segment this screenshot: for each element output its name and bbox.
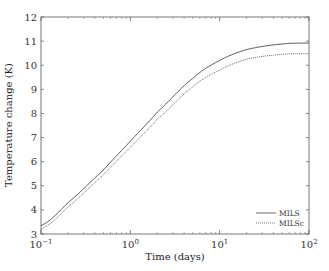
y-tick-label: 4 [31,204,37,215]
series-group [41,43,309,229]
y-tick-label: 3 [31,229,37,240]
plot-frame [41,17,309,234]
x-axis-title: Time (days) [145,251,204,262]
x-tick-label: 10−1 [29,238,52,250]
chart: 3456789101112 10−1100101102 Time (days) … [0,0,329,271]
series-line-milsc [41,54,309,230]
x-ticks: 10−1100101102 [29,17,317,250]
y-tick-label: 12 [24,12,37,23]
legend: MILS MILSc [256,209,304,228]
legend-label-mils: MILS [279,209,300,218]
y-tick-label: 9 [31,84,37,95]
x-tick-label: 102 [300,238,317,250]
series-line-mils [41,43,309,226]
y-tick-label: 11 [24,36,37,47]
y-tick-label: 5 [31,180,37,191]
x-minor-ticks [68,17,305,234]
legend-label-milsc: MILSc [279,219,304,228]
y-tick-label: 10 [24,60,37,71]
y-tick-label: 7 [31,132,37,143]
y-tick-label: 8 [31,108,37,119]
y-tick-label: 6 [31,156,37,167]
x-tick-label: 100 [122,238,139,250]
x-tick-label: 101 [211,238,228,250]
y-axis-title: Temperature change (K) [3,63,14,187]
